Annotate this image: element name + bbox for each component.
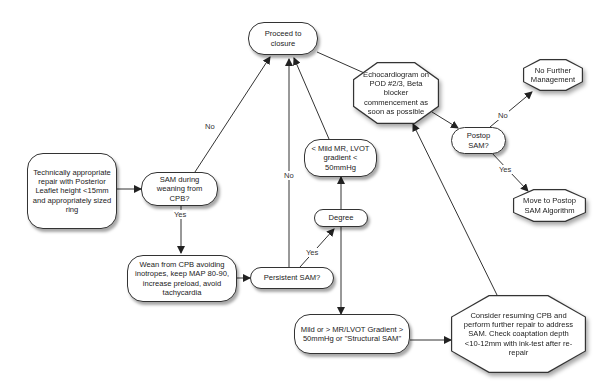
node-sam-weaning[interactable]: SAM during weaning from CPB?: [141, 172, 218, 206]
node-start-text: Technically appropriate repair with Post…: [32, 168, 112, 214]
node-degree[interactable]: Degree: [314, 209, 368, 227]
node-wean-cpb-text: Wean from CPB avoiding inotropes, keep M…: [132, 260, 232, 297]
node-mild-mr-text: < Mild MR, LVOT gradient < 50mmHg: [309, 144, 372, 172]
node-persistent-sam-text: Persistent SAM?: [264, 273, 321, 282]
node-echo[interactable]: Echocardiogram on POD #2/3, Beta blocker…: [353, 62, 439, 124]
node-severe-text: Mild or > MR/LVOT Gradient > 50mmHg or "…: [299, 325, 405, 344]
node-resume-cpb[interactable]: Consider resuming CPB and perform furthe…: [451, 295, 586, 373]
edge-sam-no-to-closure: [193, 57, 270, 175]
edge-label-persistent-yes: Yes: [305, 248, 319, 257]
node-move-postop[interactable]: Move to Postop SAM Algorithm: [513, 189, 586, 222]
edge-postop-no-to-no-further: [490, 92, 532, 127]
node-wean-cpb[interactable]: Wean from CPB avoiding inotropes, keep M…: [127, 255, 237, 302]
edge-mild-to-closure: [294, 58, 329, 139]
node-postop-sam[interactable]: Postop SAM?: [451, 127, 506, 154]
edge-label-persistent-no: No: [283, 171, 295, 180]
node-proceed-closure[interactable]: Proceed to closure: [248, 22, 318, 55]
edge-label-sam-no: No: [204, 122, 216, 131]
node-sam-weaning-text: SAM during weaning from CPB?: [146, 175, 213, 203]
node-echo-text: Echocardiogram on POD #2/3, Beta blocker…: [362, 70, 430, 116]
node-no-further[interactable]: No Further Management: [523, 59, 583, 91]
edge-label-sam-yes: Yes: [173, 210, 187, 219]
edge-label-postop-yes: Yes: [498, 165, 512, 174]
node-proceed-closure-text: Proceed to closure: [253, 29, 313, 48]
node-move-postop-text: Move to Postop SAM Algorithm: [522, 196, 577, 215]
node-resume-cpb-text: Consider resuming CPB and perform furthe…: [460, 311, 577, 357]
edge-label-postop-no: No: [497, 111, 509, 120]
node-mild-mr[interactable]: < Mild MR, LVOT gradient < 50mmHg: [304, 139, 377, 177]
node-no-further-text: No Further Management: [531, 66, 575, 85]
node-postop-sam-text: Postop SAM?: [456, 131, 501, 150]
node-severe[interactable]: Mild or > MR/LVOT Gradient > 50mmHg or "…: [294, 314, 410, 354]
node-persistent-sam[interactable]: Persistent SAM?: [250, 267, 334, 289]
node-degree-text: Degree: [329, 213, 354, 222]
node-start[interactable]: Technically appropriate repair with Post…: [27, 153, 117, 229]
